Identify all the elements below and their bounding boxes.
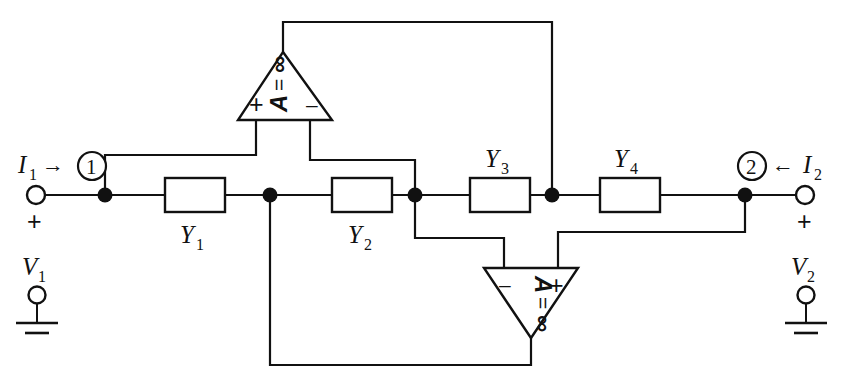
amp-bottom-gain-equals: = xyxy=(532,297,555,309)
admittance-y1: Y 1 xyxy=(165,178,225,253)
y2-box xyxy=(332,178,392,212)
right-current-arrow-icon: ← xyxy=(772,152,794,177)
admittance-y2: Y 2 xyxy=(332,178,392,253)
circuit-canvas: Y 1 Y 2 Y 3 Y 4 + xyxy=(0,0,853,387)
amp-top-plus-sign: + xyxy=(249,90,264,118)
y4-box xyxy=(600,178,660,212)
junction-dot-y1-y2 xyxy=(263,188,278,203)
amp-bottom-gain-value: ∞ xyxy=(530,315,557,332)
node1-number: 1 xyxy=(86,155,97,179)
amplifier-bottom: – + A = ∞ xyxy=(484,268,578,338)
circuit-diagram: Y 1 Y 2 Y 3 Y 4 + xyxy=(0,0,853,387)
y3-box xyxy=(470,178,530,212)
amp-top-minus-sign: – xyxy=(306,93,318,116)
amp-bottom-gain-symbol: A xyxy=(530,275,557,293)
amp-bottom-minus-sign: – xyxy=(499,273,511,296)
left-current-arrow-icon: → xyxy=(42,152,64,177)
y4-label: Y xyxy=(614,145,631,172)
junction-dot-node1 xyxy=(98,188,113,203)
right-terminal-circle xyxy=(796,186,814,204)
port-left: I 1 → 1 + V 1 – xyxy=(16,151,106,333)
y2-label: Y xyxy=(348,221,365,248)
right-current-sub: 2 xyxy=(814,166,822,183)
junction-dot-node2 xyxy=(738,188,753,203)
left-ground-terminal-circle xyxy=(29,287,46,304)
right-plus-sign: + xyxy=(797,207,812,235)
junction-dot-y3-y4 xyxy=(545,188,560,203)
amp-top-gain-equals: = xyxy=(267,79,290,91)
ground-symbol-right xyxy=(785,287,827,334)
junction-dot-y2-y3 xyxy=(408,188,423,203)
left-current-sub: 1 xyxy=(29,166,37,183)
amplifier-top: + – A = ∞ xyxy=(238,52,332,120)
right-ground-terminal-circle xyxy=(798,287,815,304)
y3-label: Y xyxy=(485,145,502,172)
admittance-y3: Y 3 xyxy=(470,145,530,212)
y1-label-sub: 1 xyxy=(196,236,204,253)
y2-label-sub: 2 xyxy=(364,236,372,253)
y1-box xyxy=(165,178,225,212)
ground-symbol-left xyxy=(16,287,58,334)
node2-number: 2 xyxy=(746,155,757,179)
port-right: 2 ← I 2 + V 2 – xyxy=(738,151,827,333)
right-current-label: I xyxy=(802,151,813,178)
admittance-y4: Y 4 xyxy=(600,145,660,212)
amp-top-gain-symbol: A xyxy=(265,95,292,113)
amp-top-gain-value: ∞ xyxy=(265,56,292,73)
amp-bottom-gain-text: A = ∞ xyxy=(530,275,557,332)
y3-label-sub: 3 xyxy=(501,160,509,177)
amp-top-gain-text: A = ∞ xyxy=(265,56,292,113)
y4-label-sub: 4 xyxy=(630,160,638,177)
left-plus-sign: + xyxy=(27,207,42,235)
y1-label: Y xyxy=(180,221,197,248)
left-current-label: I xyxy=(17,151,28,178)
left-terminal-circle xyxy=(27,186,45,204)
